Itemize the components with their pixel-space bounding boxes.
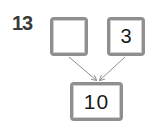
arrow-right-icon bbox=[100, 57, 125, 80]
bottom-value: 10 bbox=[84, 90, 109, 114]
sum-box: 10 bbox=[70, 82, 123, 121]
arrow-left-icon bbox=[69, 57, 96, 80]
